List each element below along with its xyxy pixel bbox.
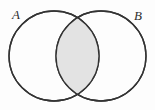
set-b-label: B (134, 8, 142, 23)
venn-diagram-canvas: A B (0, 0, 155, 110)
venn-diagram-figure: A B (0, 0, 155, 110)
set-a-label: A (11, 7, 20, 22)
